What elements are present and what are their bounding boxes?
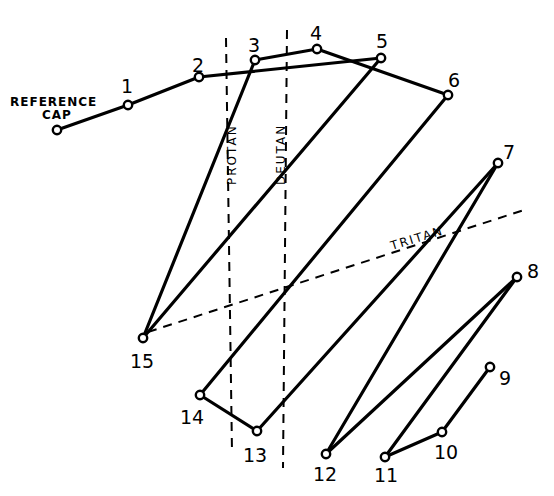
segment-14-to-13 [200,395,257,431]
cap-label-13: 13 [243,444,267,466]
cap-label-3: 3 [248,34,260,56]
cap-marker-10 [438,428,446,436]
cap-marker-9 [486,363,494,371]
segment-15-to-3 [143,60,255,338]
reference-cap-marker [53,126,61,134]
cap-marker-6 [444,91,452,99]
cap-marker-7 [494,159,502,167]
reference-cap-label-line1: REFERENCE [10,95,97,109]
cap-number-labels: 1 2 3 4 5 6 7 8 9 10 11 12 13 14 15 [121,22,539,486]
cap-marker-11 [381,453,389,461]
segment-7-to-12 [326,163,498,454]
cap-label-9: 9 [499,367,511,389]
cap-label-2: 2 [192,54,204,76]
cap-marker-14 [196,391,204,399]
tritan-label: TRITAN [388,223,445,253]
reference-cap-label-line2: CAP [42,108,72,122]
cap-marker-3 [251,56,259,64]
cap-marker-1 [124,101,132,109]
cap-label-7: 7 [503,141,515,163]
cap-label-11: 11 [374,464,398,486]
cap-marker-13 [253,427,261,435]
segment-13-to-7 [257,163,498,431]
color-vision-diagram: PROTAN DEUTAN TRITAN REFERENCE CAP 1 2 3… [0,0,554,496]
segment-1-to-2 [128,77,199,105]
segment-8-to-11 [385,277,517,457]
cap-label-8: 8 [527,260,539,282]
cap-label-14: 14 [180,406,204,428]
cap-label-15: 15 [130,350,154,372]
cap-label-5: 5 [376,30,388,52]
protan-axis [226,38,232,452]
cap-marker-5 [377,54,385,62]
cap-label-12: 12 [313,463,337,485]
cap-label-1: 1 [121,75,133,97]
cap-marker-15 [139,334,147,342]
cap-label-4: 4 [310,22,322,44]
confusion-axes [148,30,524,468]
cap-marker-8 [513,273,521,281]
cap-label-10: 10 [434,441,458,463]
cap-label-6: 6 [448,69,460,91]
cap-marker-4 [313,45,321,53]
cap-marker-12 [322,450,330,458]
segment-10-to-9 [442,367,490,432]
